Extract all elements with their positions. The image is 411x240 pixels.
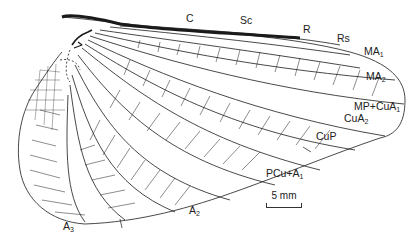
label-MA2: MA2 bbox=[366, 71, 386, 83]
label-MA1: MA1 bbox=[364, 46, 384, 58]
scale-bar-label: 5 mm bbox=[266, 190, 302, 201]
label-Rs: Rs bbox=[337, 33, 350, 44]
label-CuA2: CuA2 bbox=[344, 113, 368, 125]
label-R: R bbox=[303, 24, 311, 35]
scale-bar: 5 mm bbox=[266, 190, 302, 208]
label-A2: A2 bbox=[189, 205, 200, 217]
label-CuP: CuP bbox=[316, 131, 336, 142]
scale-bar-line bbox=[266, 203, 302, 208]
label-Sc: Sc bbox=[240, 15, 252, 26]
label-A3: A3 bbox=[63, 221, 74, 233]
label-PCu-A1: PCu+A1 bbox=[266, 168, 303, 180]
label-C: C bbox=[186, 13, 194, 24]
